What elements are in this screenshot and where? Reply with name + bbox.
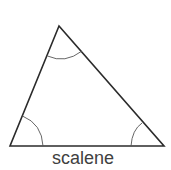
angle-arc-top [48, 51, 83, 59]
scalene-triangle-diagram: scalene [0, 0, 171, 170]
triangle-label: scalene [52, 148, 114, 168]
triangle-outline [10, 26, 164, 146]
angle-arc-bottom-left [23, 116, 44, 146]
angle-arc-bottom-right [131, 123, 142, 146]
